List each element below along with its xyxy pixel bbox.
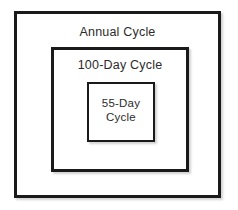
hundred-day-cycle-box: 100-Day Cycle 55-Day Cycle <box>51 47 189 172</box>
annual-cycle-label: Annual Cycle <box>17 25 218 39</box>
fifty-five-day-cycle-label: 55-Day Cycle <box>89 96 153 124</box>
hundred-day-cycle-label: 100-Day Cycle <box>54 58 186 72</box>
annual-cycle-box: Annual Cycle 100-Day Cycle 55-Day Cycle <box>14 11 221 198</box>
nested-cycle-diagram: Annual Cycle 100-Day Cycle 55-Day Cycle <box>0 0 238 210</box>
fifty-five-day-cycle-box: 55-Day Cycle <box>87 82 155 142</box>
